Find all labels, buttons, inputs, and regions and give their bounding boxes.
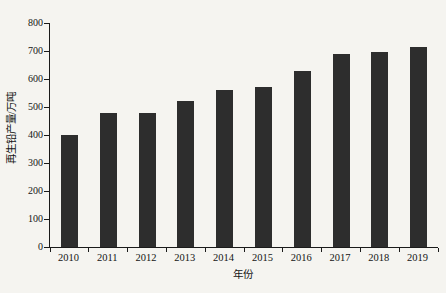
y-tick-label: 300 [0, 157, 43, 169]
bar-2014 [216, 90, 233, 247]
x-tick-label: 2016 [281, 252, 321, 264]
plot-area [49, 23, 438, 248]
x-tick-label: 2012 [126, 252, 166, 264]
x-tick-label: 2011 [87, 252, 127, 264]
x-tick-label: 2017 [320, 252, 360, 264]
y-tick [44, 219, 49, 220]
bar-2016 [294, 71, 311, 247]
y-tick-label: 100 [0, 213, 43, 225]
x-tick-label: 2019 [398, 252, 438, 264]
y-tick [44, 135, 49, 136]
x-axis-title: 年份 [49, 268, 437, 281]
bar-2017 [333, 54, 350, 247]
x-tick [438, 248, 439, 252]
y-tick [44, 79, 49, 80]
bar-2018 [371, 52, 388, 247]
bar-2010 [61, 135, 78, 247]
x-tick-label: 2010 [48, 252, 88, 264]
y-tick-label: 500 [0, 101, 43, 113]
bar-2015 [255, 87, 272, 247]
bar-chart-figure: 再生铅产量/万吨 年份 0100200300400500600700800201… [0, 0, 446, 293]
bar-2012 [139, 113, 156, 247]
y-tick-label: 600 [0, 73, 43, 85]
y-tick-label: 800 [0, 17, 43, 29]
y-tick-label: 400 [0, 129, 43, 141]
x-tick-label: 2013 [165, 252, 205, 264]
bar-2013 [177, 101, 194, 247]
y-tick-label: 200 [0, 185, 43, 197]
bar-2019 [410, 47, 427, 247]
y-tick [44, 191, 49, 192]
y-tick [44, 107, 49, 108]
x-tick-label: 2018 [359, 252, 399, 264]
y-tick [44, 51, 49, 52]
x-tick-label: 2015 [242, 252, 282, 264]
x-tick-label: 2014 [204, 252, 244, 264]
y-tick-label: 700 [0, 45, 43, 57]
y-tick-label: 0 [0, 241, 43, 253]
bar-2011 [100, 113, 117, 247]
y-tick [44, 23, 49, 24]
y-tick [44, 247, 49, 248]
y-tick [44, 163, 49, 164]
